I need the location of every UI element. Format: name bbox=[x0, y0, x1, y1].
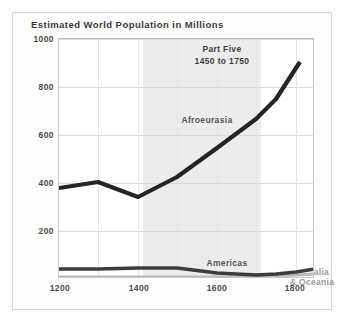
annotation-part-five-line2: 1450 to 1750 bbox=[167, 56, 277, 68]
annotation-afroeurasia: Afroeurasia bbox=[167, 115, 247, 125]
series-line-afroeurasia bbox=[59, 62, 300, 197]
chart-figure: Estimated World Population in Millions 1… bbox=[12, 12, 332, 310]
x-tick-1200: 1200 bbox=[40, 283, 80, 293]
series-lines bbox=[59, 39, 314, 278]
x-tick-1400: 1400 bbox=[119, 283, 159, 293]
annotation-australia-line2: & Oceania bbox=[290, 277, 334, 287]
annotation-americas: Americas bbox=[187, 258, 267, 268]
annotation-part-five: Part Five 1450 to 1750 bbox=[167, 44, 277, 67]
x-tick-1600: 1600 bbox=[197, 283, 237, 293]
annotation-part-five-line1: Part Five bbox=[167, 44, 277, 56]
plot-area: Part Five 1450 to 1750 Afroeurasia Ameri… bbox=[58, 38, 314, 278]
series-line-americas bbox=[59, 268, 314, 275]
